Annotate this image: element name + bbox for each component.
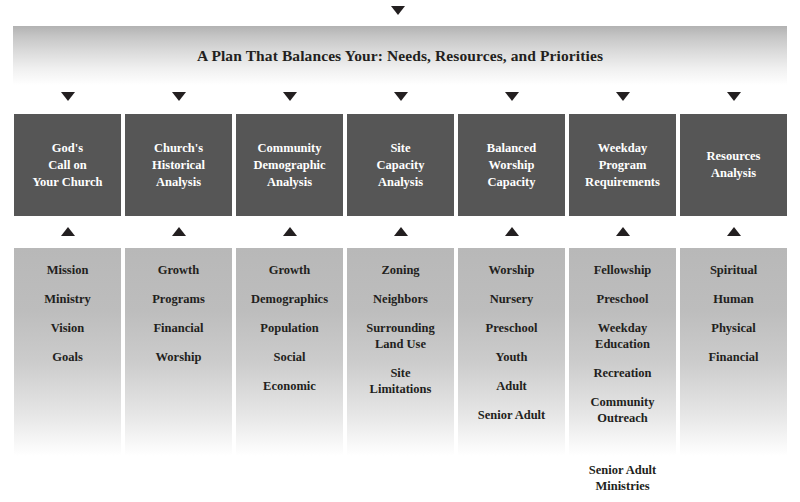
triangle-up-icon-col-2 <box>172 227 186 236</box>
list-item[interactable]: Vision <box>14 320 121 336</box>
light-column-1: MissionMinistryVisionGoals <box>14 248 121 456</box>
list-item[interactable]: Social <box>236 349 343 365</box>
triangle-down-icon-top <box>391 6 405 15</box>
light-column-4: ZoningNeighborsSurroundingLand UseSiteLi… <box>347 248 454 456</box>
list-item[interactable]: Programs <box>125 291 232 307</box>
list-item[interactable]: Economic <box>236 378 343 394</box>
triangle-down-icon-col-3 <box>283 92 297 101</box>
dark-box-label: WeekdayProgramRequirements <box>581 140 664 191</box>
list-item[interactable]: Ministry <box>14 291 121 307</box>
list-item[interactable]: Preschool <box>458 320 565 336</box>
list-item[interactable]: Recreation <box>569 365 676 381</box>
list-item[interactable]: Population <box>236 320 343 336</box>
light-column-6: FellowshipPreschoolWeekdayEducationRecre… <box>569 248 676 456</box>
dark-box-label: BalancedWorshipCapacity <box>483 140 540 191</box>
light-column-items: SpiritualHumanPhysicalFinancial <box>680 248 787 378</box>
dark-box-7[interactable]: ResourcesAnalysis <box>680 114 787 216</box>
list-item[interactable]: Demographics <box>236 291 343 307</box>
list-item[interactable]: Financial <box>125 320 232 336</box>
list-item[interactable]: Fellowship <box>569 262 676 278</box>
page-title: A Plan That Balances Your: Needs, Resour… <box>13 26 787 65</box>
list-item[interactable]: Preschool <box>569 291 676 307</box>
dark-box-5[interactable]: BalancedWorshipCapacity <box>458 114 565 216</box>
list-item[interactable]: SurroundingLand Use <box>347 320 454 352</box>
list-item[interactable]: Spiritual <box>680 262 787 278</box>
triangle-up-icon-col-1 <box>61 227 75 236</box>
triangle-down-icon-col-4 <box>394 92 408 101</box>
dark-box-2[interactable]: Church'sHistoricalAnalysis <box>125 114 232 216</box>
list-item[interactable]: Nursery <box>458 291 565 307</box>
list-item[interactable]: Neighbors <box>347 291 454 307</box>
light-column-5: WorshipNurseryPreschoolYouthAdultSenior … <box>458 248 565 456</box>
list-item[interactable]: WeekdayEducation <box>569 320 676 352</box>
list-item[interactable]: Growth <box>236 262 343 278</box>
light-column-items: ZoningNeighborsSurroundingLand UseSiteLi… <box>347 248 454 410</box>
light-column-7: SpiritualHumanPhysicalFinancial <box>680 248 787 456</box>
triangle-up-icon-col-6 <box>616 227 630 236</box>
list-item[interactable]: Growth <box>125 262 232 278</box>
dark-box-label: Church'sHistoricalAnalysis <box>148 140 209 191</box>
list-item[interactable]: SiteLimitations <box>347 365 454 397</box>
dark-box-label: CommunityDemographicAnalysis <box>249 140 329 191</box>
light-column-3: GrowthDemographicsPopulationSocialEconom… <box>236 248 343 456</box>
banner: A Plan That Balances Your: Needs, Resour… <box>13 26 787 85</box>
dark-box-label: SiteCapacityAnalysis <box>373 140 429 191</box>
triangle-down-icon-col-6 <box>616 92 630 101</box>
list-item-overflow[interactable]: Senior AdultMinistries <box>569 462 676 494</box>
light-column-items: FellowshipPreschoolWeekdayEducationRecre… <box>569 248 676 439</box>
list-item[interactable]: Youth <box>458 349 565 365</box>
list-item[interactable]: Financial <box>680 349 787 365</box>
light-column-items: MissionMinistryVisionGoals <box>14 248 121 378</box>
list-item[interactable]: Mission <box>14 262 121 278</box>
dark-box-label: ResourcesAnalysis <box>703 148 765 182</box>
dark-box-3[interactable]: CommunityDemographicAnalysis <box>236 114 343 216</box>
list-item[interactable]: CommunityOutreach <box>569 394 676 426</box>
list-item[interactable]: Worship <box>125 349 232 365</box>
light-column-items: GrowthProgramsFinancialWorship <box>125 248 232 378</box>
light-column-items: GrowthDemographicsPopulationSocialEconom… <box>236 248 343 407</box>
dark-box-6[interactable]: WeekdayProgramRequirements <box>569 114 676 216</box>
list-item[interactable]: Worship <box>458 262 565 278</box>
list-item[interactable]: Zoning <box>347 262 454 278</box>
list-item[interactable]: Adult <box>458 378 565 394</box>
triangle-down-icon-col-5 <box>505 92 519 101</box>
triangle-up-icon-col-5 <box>505 227 519 236</box>
light-column-items: WorshipNurseryPreschoolYouthAdultSenior … <box>458 248 565 436</box>
triangle-up-icon-col-3 <box>283 227 297 236</box>
dark-box-4[interactable]: SiteCapacityAnalysis <box>347 114 454 216</box>
triangle-up-icon-col-7 <box>727 227 741 236</box>
list-item[interactable]: Human <box>680 291 787 307</box>
list-item[interactable]: Senior Adult <box>458 407 565 423</box>
triangle-up-icon-col-4 <box>394 227 408 236</box>
triangle-down-icon-col-7 <box>727 92 741 101</box>
light-column-2: GrowthProgramsFinancialWorship <box>125 248 232 456</box>
dark-box-1[interactable]: God'sCall onYour Church <box>14 114 121 216</box>
diagram-canvas: A Plan That Balances Your: Needs, Resour… <box>0 0 800 502</box>
triangle-down-icon-col-2 <box>172 92 186 101</box>
list-item[interactable]: Physical <box>680 320 787 336</box>
triangle-down-icon-col-1 <box>61 92 75 101</box>
list-item[interactable]: Goals <box>14 349 121 365</box>
dark-box-label: God'sCall onYour Church <box>28 140 106 191</box>
